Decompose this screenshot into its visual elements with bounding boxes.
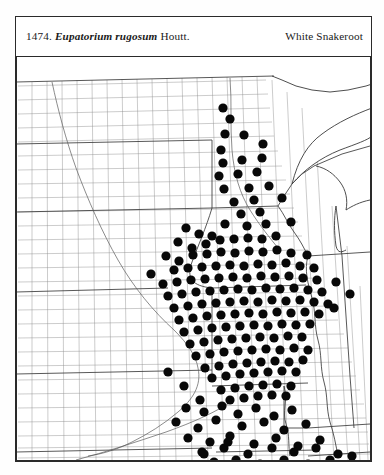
occurrence-dot bbox=[181, 223, 190, 232]
occurrence-dot bbox=[194, 229, 203, 238]
occurrence-dot bbox=[270, 356, 279, 365]
occurrence-dot bbox=[284, 357, 293, 366]
occurrence-dot bbox=[271, 231, 280, 240]
occurrence-dot bbox=[183, 263, 192, 272]
occurrence-dot bbox=[305, 319, 314, 328]
occurrence-dot bbox=[289, 343, 298, 352]
occurrence-dot bbox=[247, 285, 256, 294]
occurrence-dot bbox=[314, 309, 323, 318]
occurrence-dot bbox=[199, 337, 208, 346]
occurrence-dot bbox=[228, 272, 237, 281]
occurrence-dot bbox=[161, 251, 170, 260]
occurrence-dot bbox=[258, 247, 267, 256]
occurrence-dot bbox=[303, 345, 312, 354]
occurrence-dot bbox=[279, 425, 288, 434]
occurrence-dot bbox=[239, 130, 248, 139]
occurrence-dot bbox=[211, 298, 220, 307]
occurrence-dot bbox=[179, 381, 188, 390]
occurrence-dot bbox=[185, 339, 194, 348]
occurrence-dot bbox=[200, 274, 209, 283]
occurrence-dot bbox=[200, 363, 209, 372]
occurrence-dot bbox=[173, 237, 182, 246]
occurrence-dot bbox=[174, 256, 183, 265]
occurrence-dot bbox=[211, 415, 220, 424]
occurrence-dot bbox=[295, 261, 304, 270]
occurrence-dot bbox=[146, 269, 155, 278]
occurrence-dot bbox=[242, 358, 251, 367]
occurrence-dot bbox=[237, 421, 246, 430]
occurrence-dot bbox=[300, 307, 309, 316]
occurrence-dot bbox=[255, 332, 264, 341]
occurrence-dot bbox=[177, 289, 186, 298]
occurrence-dot bbox=[249, 320, 258, 329]
occurrence-dot bbox=[261, 219, 270, 228]
occurrence-dot bbox=[286, 217, 295, 226]
occurrence-dot bbox=[272, 379, 281, 388]
occurrence-dot bbox=[243, 233, 252, 242]
occurrence-dot bbox=[242, 273, 251, 282]
occurrence-dot bbox=[207, 373, 216, 382]
occurrence-dot bbox=[258, 380, 267, 389]
occurrence-dot bbox=[256, 357, 265, 366]
occurrence-dot bbox=[253, 259, 262, 268]
occurrence-dot bbox=[251, 403, 260, 412]
occurrence-dot bbox=[289, 283, 298, 292]
occurrence-dot bbox=[253, 391, 262, 400]
occurrence-dot bbox=[219, 347, 228, 356]
occurrence-dot bbox=[169, 303, 178, 312]
occurrence-dot bbox=[207, 231, 216, 240]
occurrence-dot bbox=[283, 331, 292, 340]
occurrence-dot bbox=[242, 221, 251, 230]
occurrence-dot bbox=[221, 371, 230, 380]
occurrence-dot bbox=[347, 451, 356, 460]
occurrence-dot bbox=[269, 411, 278, 420]
occurrence-dot bbox=[172, 277, 181, 286]
occurrence-dot bbox=[309, 297, 318, 306]
occurrence-dot bbox=[244, 381, 253, 390]
occurrence-dot bbox=[329, 303, 338, 312]
occurrence-dot bbox=[214, 273, 223, 282]
occurrence-dot bbox=[286, 248, 295, 257]
occurrence-dot bbox=[214, 171, 223, 180]
occurrence-dot bbox=[269, 333, 278, 342]
occurrence-dot bbox=[255, 207, 264, 216]
occurrence-dot bbox=[201, 239, 210, 248]
occurrence-dot bbox=[286, 308, 295, 317]
occurrence-dot bbox=[158, 279, 167, 288]
occurrence-dot bbox=[243, 449, 252, 458]
occurrence-dot bbox=[229, 197, 238, 206]
occurrence-dot bbox=[267, 260, 276, 269]
occurrence-dot bbox=[225, 297, 234, 306]
occurrence-dot bbox=[225, 260, 234, 269]
occurrence-dot bbox=[345, 289, 354, 298]
occurrence-dot bbox=[191, 351, 200, 360]
occurrence-dot bbox=[236, 209, 245, 218]
taxon-authority: Houtt. bbox=[157, 30, 189, 42]
scientific-name: Eupatorium rugosum bbox=[52, 30, 158, 42]
plate-header: 1474.Eupatorium rugosumHoutt. White Snak… bbox=[15, 16, 372, 56]
occurrence-dot bbox=[227, 334, 236, 343]
occurrence-dot bbox=[239, 296, 248, 305]
occurrence-dot bbox=[297, 332, 306, 341]
common-name-label: White Snakeroot bbox=[285, 30, 363, 42]
occurrence-dot bbox=[312, 275, 321, 284]
taxon-caption: 1474.Eupatorium rugosumHoutt. bbox=[26, 30, 190, 42]
occurrence-dot bbox=[249, 195, 258, 204]
distribution-map bbox=[16, 56, 371, 461]
occurrence-dot bbox=[174, 315, 183, 324]
occurrence-dot bbox=[286, 381, 295, 390]
occurrence-dot bbox=[205, 349, 214, 358]
occurrence-dot bbox=[163, 367, 172, 376]
occurrence-dot bbox=[264, 181, 273, 190]
occurrence-dot bbox=[309, 263, 318, 272]
occurrence-dot bbox=[220, 129, 229, 138]
occurrence-dot bbox=[205, 286, 214, 295]
occurrence-dot bbox=[233, 346, 242, 355]
occurrence-dot bbox=[183, 433, 192, 442]
occurrence-dot bbox=[241, 333, 250, 342]
occurrence-dot bbox=[298, 273, 307, 282]
occurrence-dot bbox=[267, 390, 276, 399]
occurrence-dot bbox=[249, 439, 258, 448]
occurrence-dot bbox=[216, 145, 225, 154]
occurrence-dot bbox=[247, 345, 256, 354]
